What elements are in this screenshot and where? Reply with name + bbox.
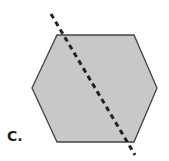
figure-label: C. <box>7 128 23 144</box>
hexagon-diagram <box>0 0 169 161</box>
hexagon-shape <box>32 35 157 142</box>
